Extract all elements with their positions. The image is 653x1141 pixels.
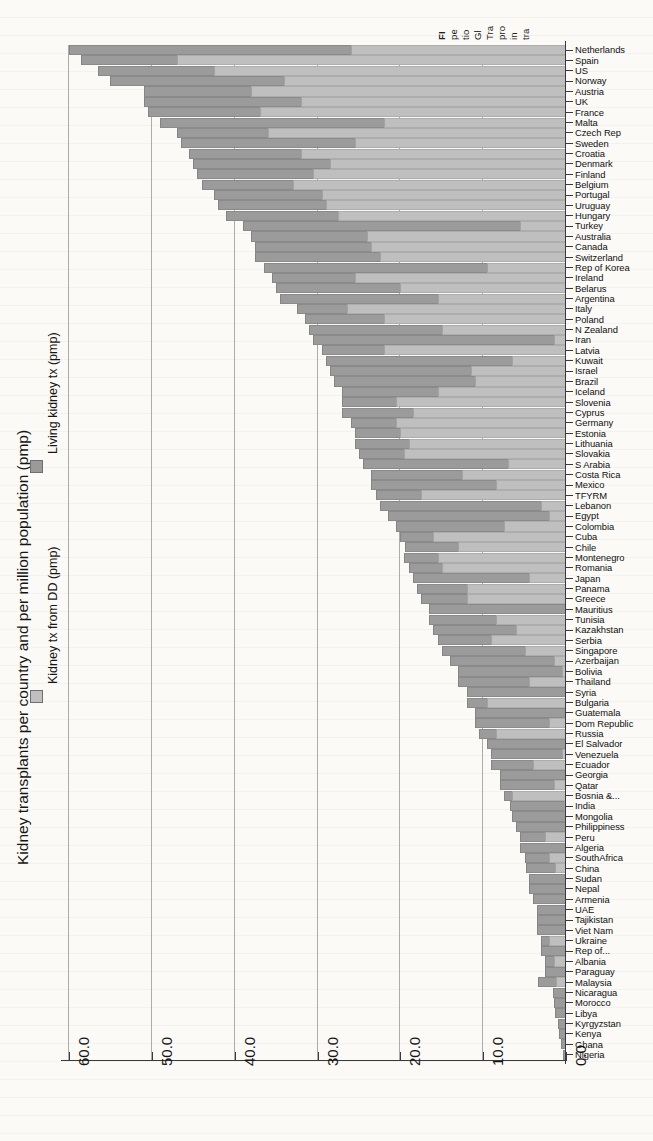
- bar-row: [450, 656, 566, 666]
- bar-segment-dd: [496, 480, 566, 490]
- bar-segment-living: [144, 97, 301, 107]
- bar-row: [110, 76, 566, 86]
- bar-segment-dd: [400, 428, 566, 438]
- category-name: Iceland: [575, 387, 605, 396]
- bar-segment-dd: [396, 418, 566, 428]
- category-name: Mexico: [575, 480, 604, 489]
- bar-segment-dd: [442, 325, 566, 335]
- category-name: Panama: [575, 584, 610, 593]
- category-label: Estonia: [566, 428, 606, 438]
- category-label: Brazil: [566, 376, 598, 386]
- bar-segment-dd: [371, 242, 566, 252]
- category-label: Singapore: [566, 646, 617, 656]
- bar-row: [533, 894, 566, 904]
- category-label: Georgia: [566, 770, 608, 780]
- category-label: Peru: [566, 832, 595, 842]
- bar-row: [396, 521, 566, 531]
- category-tick: [566, 226, 573, 227]
- bar-segment-living: [255, 252, 379, 262]
- bar-segment-living: [526, 863, 555, 873]
- bar-row: [438, 635, 566, 645]
- bar-row: [529, 874, 566, 884]
- caption-line: in: [508, 32, 519, 40]
- category-label: Netherlands: [566, 45, 625, 55]
- bar-segment-dd: [380, 252, 566, 262]
- bar-row: [512, 811, 566, 821]
- bar-segment-living: [193, 159, 330, 169]
- bar-row: [537, 905, 566, 915]
- bar-segment-living: [181, 138, 355, 148]
- category-label: Rep of Korea: [566, 263, 630, 273]
- bar-row: [297, 304, 566, 314]
- category-name: Ecuador: [575, 760, 610, 769]
- category-name: Slovakia: [575, 449, 610, 458]
- bar-segment-dd: [268, 128, 566, 138]
- category-label: Switzerland: [566, 252, 623, 262]
- bar-segment-dd: [475, 376, 566, 386]
- value-tick-mark: [69, 1052, 70, 1061]
- bar-segment-living: [342, 397, 396, 407]
- category-axis: NetherlandsSpainUSNorwayAustriaUKFranceM…: [566, 45, 653, 1060]
- category-label: Slovakia: [566, 449, 610, 459]
- category-label: Bosnia &...: [566, 791, 620, 801]
- category-name: Morocco: [575, 998, 611, 1007]
- bar-row: [202, 180, 566, 190]
- bar-row: [144, 86, 566, 96]
- bar-row: [351, 418, 566, 428]
- bar-segment-living: [450, 656, 554, 666]
- category-name: Algeria: [575, 843, 604, 852]
- category-label: Viet Nam: [566, 925, 613, 935]
- bar-segment-living: [512, 811, 566, 821]
- category-label: Mauritius: [566, 604, 613, 614]
- category-tick: [566, 70, 573, 71]
- category-name: Latvia: [575, 346, 600, 355]
- bar-segment-dd: [330, 159, 566, 169]
- category-name: Croatia: [575, 149, 605, 158]
- bar-segment-living: [442, 646, 525, 656]
- category-name: Sudan: [575, 874, 602, 883]
- category-name: Kyrgyzstan: [575, 1019, 621, 1028]
- category-name: El Salvador: [575, 739, 622, 748]
- category-name: Bulgaria: [575, 698, 609, 707]
- category-label: Lithuania: [566, 439, 613, 449]
- caption-line: Gl: [472, 30, 483, 40]
- category-tick: [566, 588, 573, 589]
- bar-segment-living: [396, 521, 504, 531]
- category-label: El Salvador: [566, 739, 622, 749]
- bar-segment-living: [276, 283, 400, 293]
- bar-row: [529, 884, 566, 894]
- bar-row: [429, 615, 566, 625]
- category-tick: [566, 526, 573, 527]
- bar-row: [342, 397, 566, 407]
- bar-row: [363, 459, 566, 469]
- category-label: Iceland: [566, 387, 605, 397]
- bar-segment-dd: [313, 169, 566, 179]
- value-tick-label: 40.0: [241, 1037, 258, 1066]
- bar-segment-living: [429, 615, 495, 625]
- category-name: China: [575, 864, 599, 873]
- category-name: Romania: [575, 563, 612, 572]
- bar-segment-dd: [284, 76, 566, 86]
- category-tick: [566, 50, 573, 51]
- bar-segment-living: [400, 532, 433, 542]
- category-tick: [566, 132, 573, 133]
- category-label: Uruguay: [566, 200, 610, 210]
- bar-row: [475, 718, 566, 728]
- category-name: Tunisia: [575, 615, 605, 624]
- bar-segment-dd: [396, 397, 566, 407]
- bar-segment-living: [404, 553, 437, 563]
- bar-segment-dd: [496, 729, 566, 739]
- category-tick: [566, 350, 573, 351]
- category-label: N Zealand: [566, 325, 618, 335]
- category-tick: [566, 153, 573, 154]
- bar-segment-dd: [438, 387, 566, 397]
- category-name: Mauritius: [575, 605, 613, 614]
- category-tick: [566, 246, 573, 247]
- caption-line: pro: [496, 26, 507, 40]
- category-tick: [566, 806, 573, 807]
- category-label: Denmark: [566, 159, 613, 169]
- category-label: Algeria: [566, 843, 604, 853]
- value-tick-mark: [400, 1052, 401, 1061]
- category-tick: [566, 775, 573, 776]
- category-name: Greece: [575, 594, 605, 603]
